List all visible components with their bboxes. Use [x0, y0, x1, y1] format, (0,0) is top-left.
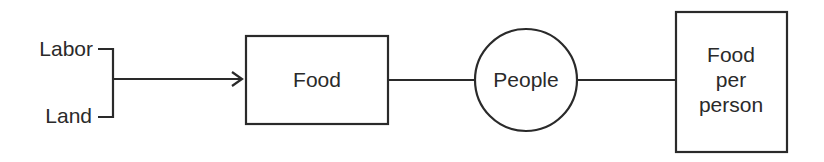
input-labor-label: Labor — [39, 37, 93, 60]
input-land-label: Land — [45, 104, 92, 127]
input-bracket — [98, 49, 113, 117]
food-label: Food — [293, 68, 341, 91]
diagram: Labor Land Food People Food per person — [0, 0, 824, 162]
food-per-person-label-line3: person — [699, 93, 763, 116]
food-per-person-label-line1: Food — [707, 43, 755, 66]
food-per-person-label-line2: per — [716, 68, 746, 91]
people-label: People — [493, 68, 558, 91]
